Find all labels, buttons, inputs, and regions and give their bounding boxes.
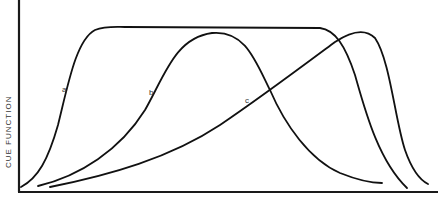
curve-a-label: a: [62, 85, 67, 94]
cue-function-chart: a b c CUE FUNCTION: [0, 0, 442, 200]
curve-a: [21, 27, 407, 188]
curve-b: [38, 33, 382, 186]
curve-c-label: c: [245, 96, 249, 105]
curve-b-label: b: [149, 88, 154, 97]
y-axis-label: CUE FUNCTION: [4, 96, 13, 168]
curve-c: [50, 32, 428, 187]
